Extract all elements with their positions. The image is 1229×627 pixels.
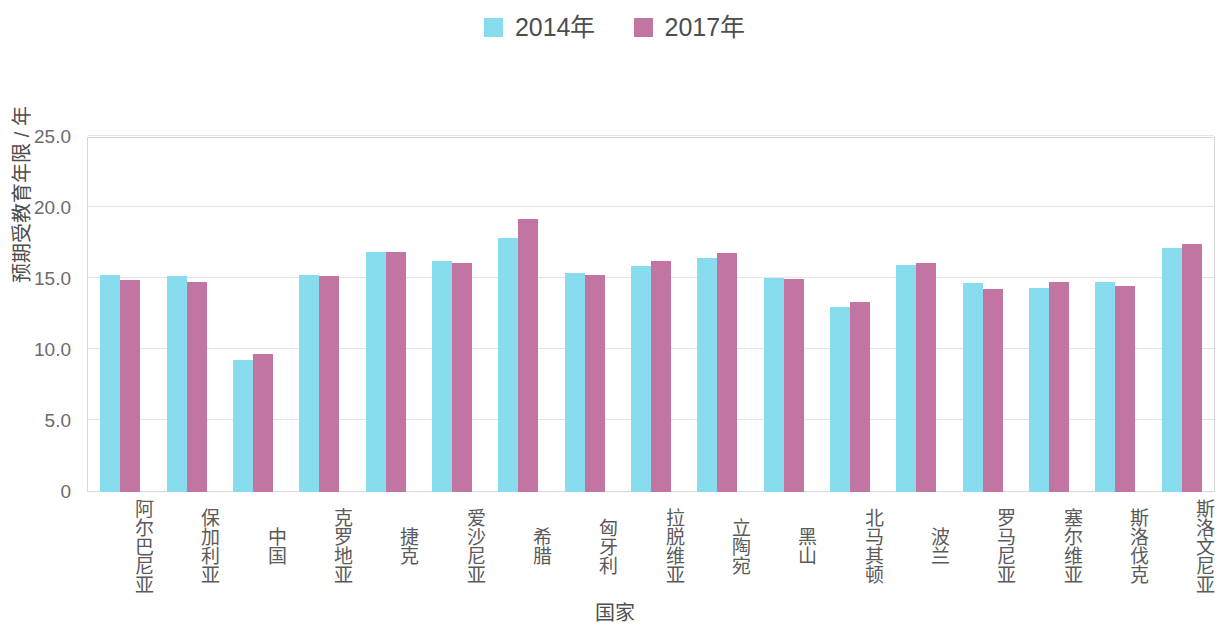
gridline-10: [88, 348, 1214, 349]
y-tick-label-10: 10.0: [34, 339, 71, 361]
x-tick-label-14: 罗马尼亚: [950, 498, 1016, 594]
x-tick-label-8: 匈牙利: [551, 498, 617, 594]
chart-legend: 2014年2017年: [0, 10, 1229, 44]
x-tick-label-9: 拉脱维亚: [618, 498, 684, 594]
x-tick-label-4: 克罗地亚: [286, 498, 352, 594]
x-tick-label-17: 斯洛文尼亚: [1149, 498, 1215, 594]
plot-area: [87, 137, 1215, 492]
x-tick-label-1: 阿尔巴尼亚: [87, 498, 153, 594]
x-axis-title: 国家: [0, 597, 1229, 626]
x-tick-label-2: 保加利亚: [153, 498, 219, 594]
gridline-20: [88, 206, 1214, 207]
x-axis-tick-labels: 阿尔巴尼亚保加利亚中国克罗地亚捷克爱沙尼亚希腊匈牙利拉脱维亚立陶宛黑山北马其顿波…: [87, 498, 1215, 594]
x-tick-label-10: 立陶宛: [684, 498, 750, 594]
x-tick-label-16: 斯洛伐克: [1082, 498, 1148, 594]
x-tick-label-7: 希腊: [485, 498, 551, 594]
legend-entry-1[interactable]: 2014年: [484, 15, 596, 40]
x-tick-label-3: 中国: [220, 498, 286, 594]
legend-label-1: 2014年: [515, 15, 596, 40]
legend-label-2: 2017年: [665, 15, 746, 40]
legend-entry-2[interactable]: 2017年: [634, 15, 746, 40]
x-tick-label-11: 黑山: [751, 498, 817, 594]
gridline-5: [88, 419, 1214, 420]
gridline-15: [88, 277, 1214, 278]
x-tick-label-13: 波兰: [883, 498, 949, 594]
y-axis-title: 预期受教育年限 / 年: [6, 30, 35, 360]
legend-swatch-2014: [484, 18, 503, 37]
y-tick-label-20: 20.0: [34, 197, 71, 219]
x-tick-label-6: 爱沙尼亚: [419, 498, 485, 594]
y-tick-label-5: 5.0: [45, 410, 71, 432]
gridline-25: [88, 135, 1214, 136]
x-tick-label-5: 捷克: [352, 498, 418, 594]
y-tick-label-0: 0: [60, 481, 71, 503]
x-tick-label-15: 塞尔维亚: [1016, 498, 1082, 594]
y-tick-label-15: 15.0: [34, 268, 71, 290]
legend-swatch-2017: [634, 18, 653, 37]
x-tick-label-12: 北马其顿: [817, 498, 883, 594]
y-tick-label-25: 25.0: [34, 126, 71, 148]
